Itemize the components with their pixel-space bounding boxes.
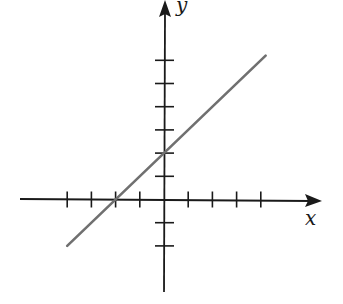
coordinate-plot: x y [0, 0, 343, 304]
x-axis [20, 199, 312, 201]
x-axis-label: x [305, 206, 316, 230]
y-axis-label: y [175, 0, 188, 17]
chart-canvas: x y [0, 0, 343, 304]
